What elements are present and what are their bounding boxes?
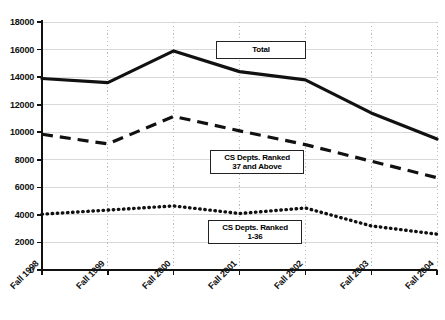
series-label-ranked37-line1: CS Depts. Ranked — [215, 153, 299, 162]
y-tick-label-2000: 2000 — [0, 237, 34, 247]
y-tick-label-18000: 18000 — [0, 17, 34, 27]
y-tick-label-6000: 6000 — [0, 182, 34, 192]
series-label-ranked-1-36: CS Depts. Ranked 1-36 — [208, 220, 302, 244]
series-label-ranked37-line2: 37 and Above — [215, 162, 299, 171]
y-tick-label-10000: 10000 — [0, 127, 34, 137]
y-tick-label-16000: 16000 — [0, 45, 34, 55]
series-label-total-line1: Total — [221, 45, 301, 54]
series-label-total: Total — [216, 41, 306, 59]
series-label-ranked136-line2: 1-36 — [213, 232, 297, 241]
y-tick-label-8000: 8000 — [0, 155, 34, 165]
y-tick-label-4000: 4000 — [0, 210, 34, 220]
y-tick-label-12000: 12000 — [0, 100, 34, 110]
series-label-ranked136-line1: CS Depts. Ranked — [213, 223, 297, 232]
y-tick-label-14000: 14000 — [0, 72, 34, 82]
series-label-ranked-37-and-above: CS Depts. Ranked 37 and Above — [210, 150, 304, 174]
line-chart: 18000 16000 14000 12000 10000 8000 6000 … — [0, 0, 445, 320]
